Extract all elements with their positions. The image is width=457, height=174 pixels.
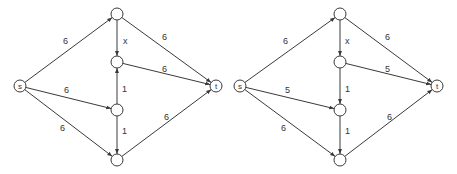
graph-right: st656x11656 <box>234 8 443 166</box>
edge-s-to-a <box>25 18 112 83</box>
edge-capacity-label: 6 <box>162 64 167 74</box>
edge-capacity-label: 6 <box>162 32 167 42</box>
node-b <box>334 56 346 68</box>
node-label-s: s <box>18 82 22 91</box>
flow-network-diagram: st666x11666 st656x11656 <box>0 0 457 174</box>
node-a <box>334 8 346 20</box>
edge-capacity-label: 6 <box>60 123 65 133</box>
node-c <box>334 104 346 116</box>
node-b <box>111 56 123 68</box>
edge-s-to-d <box>25 90 112 157</box>
edge-capacity-label: x <box>345 36 350 46</box>
edge-capacity-label: 6 <box>281 123 286 133</box>
edge-capacity-label: 6 <box>64 85 69 95</box>
edge-capacity-label: x <box>123 36 128 46</box>
edge-capacity-label: 6 <box>164 112 169 122</box>
graph-left: st666x11666 <box>14 8 222 166</box>
edge-capacity-label: 1 <box>345 84 350 94</box>
edge-capacity-label: 6 <box>63 36 68 46</box>
node-d <box>334 154 346 166</box>
edge-s-to-a <box>245 18 335 83</box>
edge-capacity-label: 1 <box>122 84 127 94</box>
edge-capacity-label: 6 <box>387 112 392 122</box>
edge-capacity-label: 1 <box>345 126 350 136</box>
edge-s-to-d <box>245 90 335 157</box>
edge-capacity-label: 5 <box>385 64 390 74</box>
node-label-s: s <box>238 82 242 91</box>
edge-capacity-label: 1 <box>122 126 127 136</box>
edge-capacity-label: 6 <box>385 32 390 42</box>
node-a <box>111 8 123 20</box>
edge-d-to-t <box>122 90 211 157</box>
node-c <box>111 104 123 116</box>
node-d <box>111 154 123 166</box>
edge-capacity-label: 5 <box>285 85 290 95</box>
edge-capacity-label: 6 <box>283 36 288 46</box>
edge-d-to-t <box>345 90 432 157</box>
